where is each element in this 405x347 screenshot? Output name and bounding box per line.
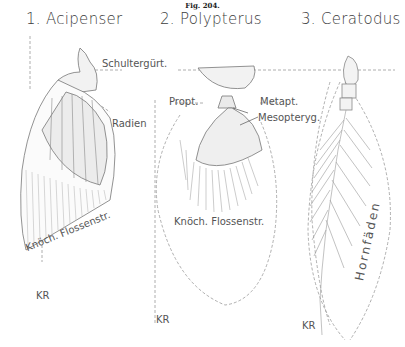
label-propterygium: Propt. <box>169 96 198 107</box>
label-metapterygium: Metapt. <box>260 96 298 107</box>
label-shoulder-girdle: Schultergürt. <box>102 58 167 69</box>
label-kr-acipenser: KR <box>36 290 50 301</box>
label-radials: Radien <box>112 118 146 129</box>
fin-skeleton-illustration <box>0 0 405 347</box>
label-kr-polypterus: KR <box>156 314 170 325</box>
label-bony-fin-rays-polypterus: Knöch. Flossenstr. <box>174 216 264 227</box>
label-kr-ceratodus: KR <box>302 320 316 331</box>
label-mesopterygium: Mesopteryg. <box>258 112 320 123</box>
